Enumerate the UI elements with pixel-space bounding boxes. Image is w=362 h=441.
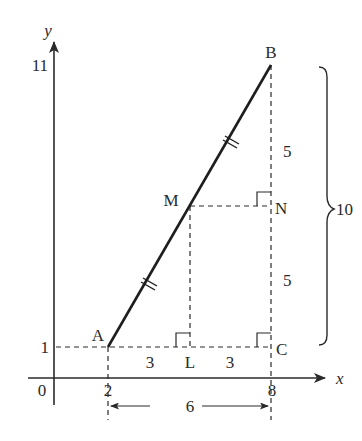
point-label-c: C: [276, 340, 287, 359]
point-label-a: A: [92, 326, 105, 345]
x-tick-2: 2: [104, 381, 113, 400]
right-angle-l-icon: [176, 333, 190, 347]
coordinate-diagram: y x 0 11 1 2 8 A B M L N C 3 3 5 5 10 6: [0, 0, 362, 441]
measure-span: 6: [186, 397, 195, 416]
right-angle-n-icon: [257, 192, 271, 206]
measure-nc: 5: [283, 271, 292, 290]
point-label-b: B: [265, 43, 276, 62]
measure-lc: 3: [226, 353, 235, 372]
y-tick-11: 11: [32, 56, 48, 75]
brace-bc: [319, 67, 334, 345]
point-label-l: L: [185, 353, 195, 372]
y-axis-label: y: [42, 21, 52, 40]
x-tick-8: 8: [268, 381, 277, 400]
point-label-n: N: [275, 199, 287, 218]
point-label-m: M: [163, 191, 178, 210]
right-angle-c-icon: [257, 333, 271, 347]
origin-label: 0: [38, 381, 47, 400]
measure-bn: 5: [283, 142, 292, 161]
x-axis-label: x: [335, 369, 344, 388]
y-tick-1: 1: [41, 338, 50, 357]
diagram-canvas: y x 0 11 1 2 8 A B M L N C 3 3 5 5 10 6: [0, 0, 362, 441]
measure-brace: 10: [336, 200, 353, 219]
measure-al: 3: [146, 353, 155, 372]
